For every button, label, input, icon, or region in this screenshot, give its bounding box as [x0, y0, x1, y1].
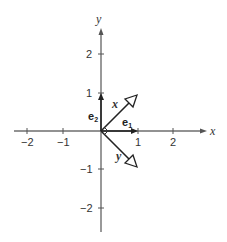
e2-arrowhead-icon [98, 93, 104, 100]
y-axis-label: y [95, 12, 102, 26]
vector-y: y [101, 131, 137, 167]
x-tick-label: 2 [170, 136, 176, 148]
vector-x-label: x [111, 97, 118, 111]
y-tick-label: −1 [80, 163, 93, 175]
x-tick-label: −2 [21, 136, 34, 148]
e2-label: e2 [88, 110, 98, 123]
y-tick-label: 1 [86, 87, 92, 99]
y-axis-arrow-icon [99, 28, 104, 35]
vector-y-label: y [114, 149, 122, 163]
x-tick-label: 1 [135, 136, 141, 148]
y-tick-label: 2 [86, 48, 92, 60]
y-tick-label: −2 [80, 202, 93, 214]
x-axis-arrow-icon [200, 129, 207, 134]
x-tick-label: −1 [57, 136, 70, 148]
x-axis-label: x [209, 124, 216, 138]
e1-arrowhead-icon [131, 128, 138, 134]
e1-label: e1 [122, 116, 132, 129]
coordinate-diagram: x −2 −1 1 2 y 2 1 −1 −2 e1 e2 x [0, 0, 227, 242]
